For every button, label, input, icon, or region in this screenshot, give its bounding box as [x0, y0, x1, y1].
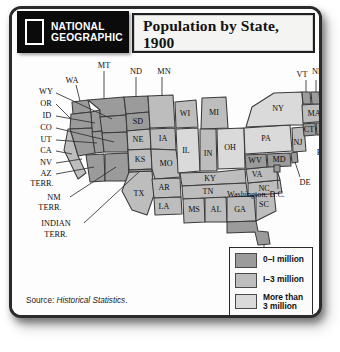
legend-label-1: I–3 million	[263, 275, 304, 284]
region-INDIAN-TERR[interactable]	[129, 169, 152, 172]
label-CT: CT	[304, 125, 314, 134]
label-DE: DE	[299, 178, 310, 187]
label-NJ: NJ	[294, 138, 303, 147]
label-IL: IL	[182, 146, 190, 155]
label-KY: KY	[204, 174, 216, 183]
natgeo-line-2: GEOGRAPHIC	[51, 32, 123, 43]
label-NY: NY	[272, 104, 284, 113]
region-CO[interactable]	[102, 132, 128, 152]
label-CA: CA	[40, 146, 52, 155]
label-MT: MT	[98, 61, 110, 70]
label-MA: MA	[307, 109, 319, 118]
legend-label-2: More than3 million	[263, 293, 303, 311]
label-VA: VA	[252, 170, 263, 179]
legend-row-1[interactable]: I–3 million	[235, 273, 307, 288]
label-RI: RI	[317, 148, 319, 157]
label-AZ-terr: TERR.	[30, 179, 53, 188]
source-suffix: .	[125, 296, 127, 305]
label-IN: IN	[204, 149, 213, 158]
label-PA: PA	[261, 134, 271, 143]
label-LA: LA	[159, 202, 170, 211]
label-NV: NV	[40, 158, 52, 167]
label-WA: WA	[66, 76, 79, 85]
label-UT: UT	[40, 135, 51, 144]
label-WV: WV	[248, 156, 262, 165]
label-SD: SD	[133, 117, 144, 126]
map-stage: MT ND MN WA WY OR ID CO UT CA NV AZ TERR…	[12, 55, 319, 315]
label-TX: TX	[134, 189, 145, 198]
source-title: Historical Statistics	[57, 296, 126, 305]
label-WY: WY	[39, 87, 53, 96]
legend-row-2[interactable]: More than3 million	[235, 293, 307, 311]
national-geographic-logo: NATIONAL GEOGRAPHIC	[17, 11, 129, 53]
label-MI: MI	[209, 108, 219, 117]
page-title: Population by State, 1900	[143, 18, 309, 51]
label-MN: MN	[157, 67, 170, 76]
label-GA: GA	[234, 205, 246, 214]
label-MD: MD	[272, 155, 285, 164]
label-KS: KS	[135, 155, 145, 164]
card-header: NATIONAL GEOGRAPHIC Population by State,…	[12, 9, 319, 55]
label-AR: AR	[158, 183, 170, 192]
label-AZ: AZ	[40, 169, 51, 178]
leader-WA	[76, 85, 80, 101]
label-AL: AL	[211, 205, 222, 214]
label-MS: MS	[188, 205, 200, 214]
natgeo-wordmark: NATIONAL GEOGRAPHIC	[51, 21, 128, 43]
label-SC: SC	[259, 200, 269, 209]
source-note: Source: Historical Statistics.	[26, 296, 127, 305]
map-card: NATIONAL GEOGRAPHIC Population by State,…	[9, 6, 322, 318]
label-VT: VT	[296, 70, 307, 79]
label-MO: MO	[159, 159, 172, 168]
region-NH[interactable]	[311, 92, 319, 104]
region-DE[interactable]	[291, 152, 298, 163]
label-WI: WI	[180, 109, 191, 118]
region-NM[interactable]	[105, 153, 129, 181]
title-plate: Population by State, 1900	[132, 13, 315, 53]
region-MN[interactable]	[148, 95, 175, 128]
screenshot-root: NATIONAL GEOGRAPHIC Population by State,…	[0, 0, 340, 352]
label-TN: TN	[203, 187, 214, 196]
legend-swatch-2	[235, 294, 257, 309]
label-ND: ND	[130, 67, 142, 76]
legend-label-0: 0–I million	[263, 255, 304, 264]
label-NE: NE	[133, 135, 144, 144]
label-INDIAN-terr: TERR.	[44, 230, 67, 239]
label-IA: IA	[159, 134, 168, 143]
natgeo-rectangle-icon	[25, 19, 44, 45]
region-VT[interactable]	[302, 92, 311, 104]
title-line-2: 1900	[143, 35, 309, 52]
label-NC: NC	[258, 184, 269, 193]
region-WY[interactable]	[100, 115, 127, 133]
region-RI[interactable]	[316, 123, 319, 135]
label-NM: NM	[47, 193, 61, 202]
label-NH: NH	[312, 67, 319, 76]
label-INDIAN: INDIAN	[41, 219, 71, 228]
label-NM-terr: TERR.	[38, 203, 61, 212]
region-FL[interactable]	[227, 221, 270, 245]
label-OH: OH	[224, 143, 236, 152]
region-ND[interactable]	[124, 96, 149, 114]
label-DC: Washington, D.C.	[227, 190, 285, 199]
map-card-inner: NATIONAL GEOGRAPHIC Population by State,…	[12, 9, 319, 315]
label-CO: CO	[40, 123, 52, 132]
label-ID: ID	[43, 111, 52, 120]
source-prefix: Source:	[26, 296, 57, 305]
legend-swatch-1	[235, 273, 257, 288]
region-DC[interactable]	[274, 165, 280, 172]
title-line-1: Population by State,	[143, 18, 309, 35]
legend-row-0[interactable]: 0–I million	[235, 253, 307, 268]
leader-DE	[295, 162, 300, 177]
legend: 0–I million I–3 million More than3 milli…	[229, 247, 313, 315]
label-OR: OR	[40, 99, 52, 108]
legend-swatch-0	[235, 253, 257, 268]
